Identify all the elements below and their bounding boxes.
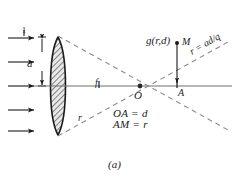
point-m-marker [175,41,179,45]
relation-am-label: AM = r [113,119,148,130]
incoming-ray-arrows [8,38,34,131]
ray-r-label: r [78,113,82,123]
point-a-label: A [178,88,184,98]
diagram-canvas [0,0,237,181]
aperture-label: a [27,58,33,69]
top-ray-label: 1 [22,27,26,35]
amplitude-label: g(r,d) [146,35,170,46]
figure-caption: (a) [108,159,121,170]
point-o-marker [138,84,143,89]
point-o-label: O [134,90,142,101]
focal-length-label: f [95,78,98,88]
optics-ray-diagram-figure: 1 a f O A M g(r,d) r r = ad/q OA = d AM … [0,0,237,181]
aperture-dimension [38,37,46,86]
